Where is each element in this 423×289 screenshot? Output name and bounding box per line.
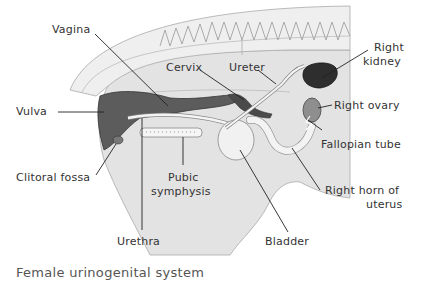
label-right-kidney-2: kidney bbox=[363, 56, 401, 68]
label-right-ovary: Right ovary bbox=[334, 100, 400, 112]
label-ureter: Ureter bbox=[229, 62, 265, 74]
bladder bbox=[218, 120, 254, 160]
label-right-horn-1: Right horn of bbox=[325, 185, 399, 197]
label-pubic-1: Pubic bbox=[168, 172, 199, 184]
label-cervix: Cervix bbox=[166, 62, 202, 74]
clitoral-fossa bbox=[113, 136, 123, 144]
label-bladder: Bladder bbox=[265, 236, 309, 248]
label-vulva: Vulva bbox=[16, 106, 47, 118]
label-right-horn-2: uterus bbox=[366, 199, 402, 211]
figure-caption: Female urinogenital system bbox=[16, 265, 204, 280]
label-vagina: Vagina bbox=[52, 24, 90, 36]
right-ovary bbox=[303, 98, 321, 122]
label-urethra: Urethra bbox=[117, 236, 160, 248]
label-right-kidney-1: Right bbox=[374, 42, 404, 54]
label-fallopian-tube: Fallopian tube bbox=[321, 139, 401, 151]
label-clitoral-fossa: Clitoral fossa bbox=[16, 172, 90, 184]
label-pubic-2: symphysis bbox=[151, 186, 211, 198]
